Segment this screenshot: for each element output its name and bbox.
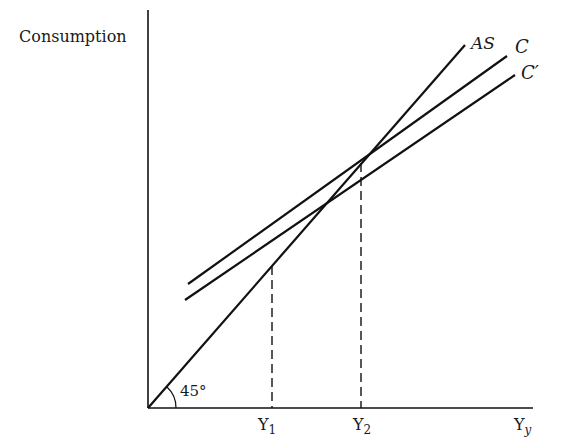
x-tick-y1: Y1	[257, 415, 276, 437]
x-tick-y1-main: Y	[257, 415, 269, 434]
angle-arc-icon	[167, 387, 176, 408]
x-axis-label: Yy	[513, 415, 532, 437]
c-line	[188, 56, 507, 284]
x-tick-y2-main: Y	[352, 415, 364, 434]
x-tick-y2: Y2	[352, 415, 371, 437]
x-axis-label-sub: y	[524, 423, 532, 437]
c-line-label: C	[515, 36, 529, 57]
x-axis-label-main: Y	[513, 415, 525, 434]
as-line	[148, 45, 465, 408]
c-prime-line-label: C′	[521, 62, 539, 83]
consumption-diagram: Consumption AS C C′ 45° Y1 Y2 Yy	[0, 0, 563, 438]
c-prime-line	[185, 75, 515, 300]
angle-label: 45°	[180, 382, 207, 400]
x-tick-y1-sub: 1	[269, 423, 277, 437]
y-axis-label: Consumption	[19, 27, 127, 46]
x-tick-y2-sub: 2	[364, 423, 372, 437]
as-line-label: AS	[469, 33, 495, 53]
